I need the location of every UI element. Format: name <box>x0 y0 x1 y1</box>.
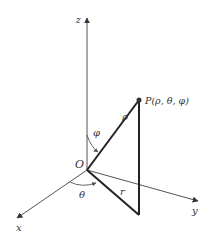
z-axis-label: z <box>75 15 81 25</box>
y-axis-label: y <box>191 205 198 216</box>
r-label: r <box>120 186 126 197</box>
x-axis-label: x <box>16 222 22 233</box>
phi-label: φ <box>93 127 100 138</box>
origin-label: O <box>75 158 84 171</box>
point-p-label: P(ρ, θ, φ) <box>144 95 189 106</box>
theta-angle-arc <box>70 182 96 185</box>
rho-label: ρ <box>121 111 128 122</box>
x-axis <box>17 170 87 218</box>
point-p-dot <box>137 98 142 103</box>
spherical-coordinates-diagram: z x y O P(ρ, θ, φ) ρ r φ θ <box>0 0 213 242</box>
theta-label: θ <box>79 189 85 200</box>
